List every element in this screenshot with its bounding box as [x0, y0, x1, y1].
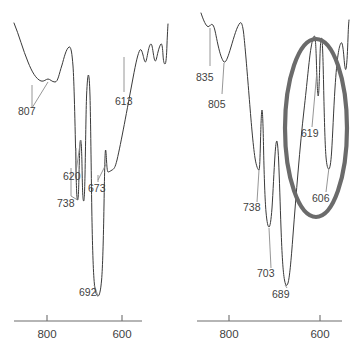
leader-line-805 [222, 63, 224, 94]
leader-line-606 [326, 169, 329, 192]
peak-label-692: 692 [79, 286, 97, 298]
left-spectrum-panel: 807 620 673 738 692 613 800 600 [14, 23, 168, 340]
right-tick-label-800: 800 [219, 328, 238, 340]
spectra-figure: 807 620 673 738 692 613 800 600 835 805 … [0, 0, 356, 347]
peak-label-689: 689 [272, 288, 290, 300]
peak-label-805: 805 [208, 98, 226, 110]
peak-label-606: 606 [312, 192, 330, 204]
left-spectrum-trace [14, 23, 168, 296]
right-tick-label-600: 600 [310, 328, 329, 340]
peak-label-703: 703 [257, 267, 275, 279]
leader-line-738 [257, 170, 259, 202]
right-spectrum-panel: 835 805 738 703 689 619 606 800 600 [196, 13, 349, 340]
peak-label-673: 673 [88, 182, 106, 194]
right-spectrum-trace [201, 13, 349, 285]
peak-label-620: 620 [63, 170, 81, 182]
peak-label-738: 738 [57, 197, 75, 209]
peak-label-613: 613 [115, 95, 133, 107]
peak-label-738: 738 [243, 201, 261, 213]
leader-line-619 [312, 76, 317, 127]
peak-label-619: 619 [301, 127, 319, 139]
left-tick-label-800: 800 [37, 328, 56, 340]
leader-line-673 [98, 163, 107, 180]
peak-label-835: 835 [196, 71, 214, 83]
leader-line-703 [269, 228, 271, 268]
peak-label-807: 807 [18, 105, 36, 117]
left-tick-label-600: 600 [112, 328, 131, 340]
